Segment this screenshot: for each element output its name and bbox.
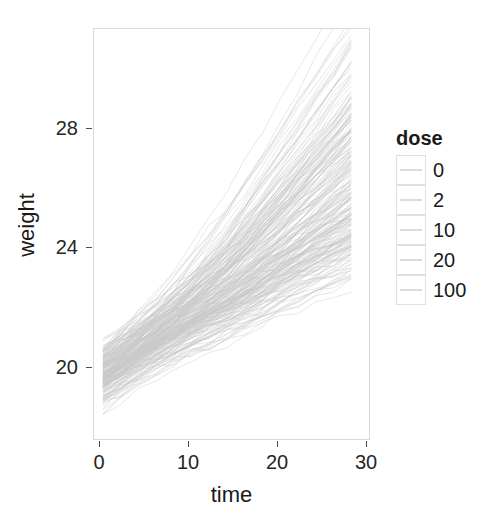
x-axis-title: time [93, 484, 370, 506]
legend-item-label: 0 [433, 160, 444, 180]
legend-key-swatch [396, 185, 426, 215]
legend-key-swatch [396, 275, 426, 305]
legend-items: 021020100 [396, 155, 492, 305]
legend-key-swatch [396, 245, 426, 275]
x-tick-label-0: 0 [69, 452, 129, 472]
x-tick-label-30: 30 [336, 452, 396, 472]
x-tick-label-10: 10 [158, 452, 218, 472]
legend-title: dose [396, 128, 492, 148]
spaghetti-lines [94, 29, 369, 439]
legend-item-label: 100 [433, 280, 466, 300]
y-axis-title: weight [16, 180, 38, 270]
x-tick-mark-0 [99, 441, 100, 447]
legend-item[interactable]: 10 [396, 215, 492, 245]
legend-line-icon [400, 259, 422, 261]
legend-line-icon [400, 169, 422, 171]
legend-item[interactable]: 0 [396, 155, 492, 185]
x-tick-mark-10 [188, 441, 189, 447]
y-tick-mark-24 [86, 247, 92, 248]
legend-key-swatch [396, 215, 426, 245]
y-tick-label-20: 20 [8, 357, 78, 377]
x-tick-label-20: 20 [247, 452, 307, 472]
legend-key-swatch [396, 155, 426, 185]
x-tick-mark-30 [366, 441, 367, 447]
y-tick-mark-20 [86, 367, 92, 368]
legend-item[interactable]: 2 [396, 185, 492, 215]
legend-item[interactable]: 20 [396, 245, 492, 275]
legend-line-icon [400, 199, 422, 201]
legend-item[interactable]: 100 [396, 275, 492, 305]
y-tick-mark-28 [86, 128, 92, 129]
chart-figure: 28 24 20 0 10 20 30 time weight dose 021… [0, 0, 496, 528]
legend-line-icon [400, 289, 422, 291]
legend-item-label: 20 [433, 250, 455, 270]
y-tick-label-28: 28 [8, 118, 78, 138]
legend: dose 021020100 [396, 128, 492, 305]
legend-line-icon [400, 229, 422, 231]
x-tick-mark-20 [277, 441, 278, 447]
plot-panel [93, 28, 370, 440]
legend-item-label: 10 [433, 220, 455, 240]
legend-item-label: 2 [433, 190, 444, 210]
